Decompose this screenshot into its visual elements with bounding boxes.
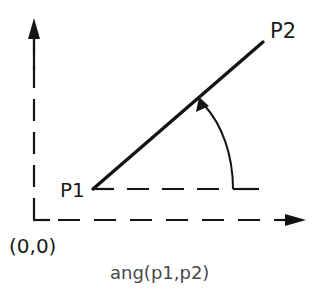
y-axis-arrow-icon	[28, 18, 40, 39]
angle-caption: ang(p1,p2)	[110, 262, 209, 283]
y-axis	[28, 18, 40, 220]
angle-diagram: P2 P1 (0,0) ang(p1,p2)	[0, 0, 328, 298]
origin-label: (0,0)	[9, 234, 56, 258]
p1-label: P1	[60, 178, 85, 202]
p2-label: P2	[270, 19, 296, 43]
x-axis	[33, 214, 306, 226]
x-axis-arrow-icon	[285, 214, 306, 226]
angle-arc-path	[205, 106, 233, 189]
angle-arc	[196, 97, 233, 189]
p1-p2-line	[93, 42, 263, 189]
